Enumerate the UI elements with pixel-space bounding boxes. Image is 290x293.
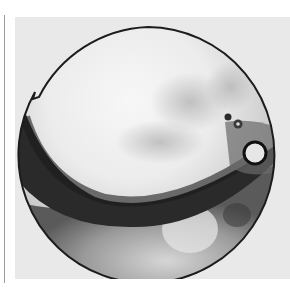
mirror-disc-image <box>15 17 290 279</box>
photograph <box>15 17 290 279</box>
left-margin-rule <box>4 15 5 283</box>
